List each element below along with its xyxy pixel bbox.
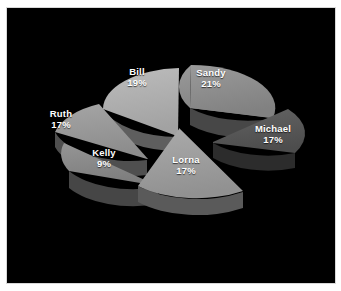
chart-plot-area: Sandy 21% Michael 17% Lorna 17% Kelly 9%… bbox=[6, 7, 336, 284]
figure-frame: Sandy 21% Michael 17% Lorna 17% Kelly 9%… bbox=[0, 0, 341, 291]
pie-chart-svg bbox=[7, 8, 336, 284]
